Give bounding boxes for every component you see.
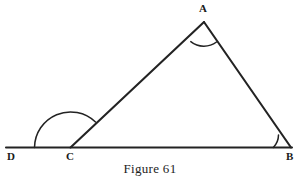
figure-caption: Figure 61 (0, 161, 300, 177)
line-segment-CA (71, 22, 205, 148)
line-segment-AB (204, 22, 291, 148)
angle-arc-B (273, 135, 278, 148)
angle-arc-A (191, 42, 217, 47)
geometry-drawing (0, 0, 300, 183)
geometry-figure: A B C D Figure 61 (0, 0, 300, 183)
angle-arc-C-exterior (35, 112, 96, 148)
vertex-label-a: A (199, 3, 207, 14)
